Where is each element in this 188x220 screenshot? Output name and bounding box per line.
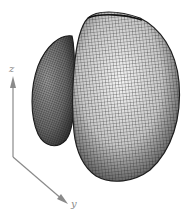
back-lobe — [25, 30, 80, 155]
z-axis-arrowhead-icon — [10, 76, 16, 88]
z-axis-label: z — [9, 64, 14, 74]
mesh-plot-canvas — [0, 0, 188, 220]
radiation-pattern-figure: z y — [0, 0, 188, 220]
y-axis-label: y — [71, 199, 77, 209]
y-axis-line — [13, 157, 63, 200]
main-lobe — [65, 5, 188, 190]
